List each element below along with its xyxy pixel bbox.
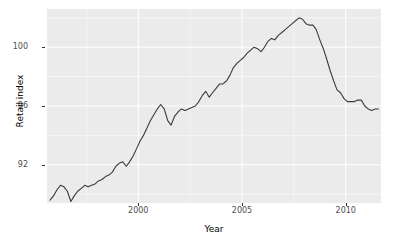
plot-panel — [47, 9, 381, 203]
y-tick-mark — [42, 165, 45, 166]
plot-svg — [47, 9, 381, 203]
x-tick-label: 2010 — [336, 207, 356, 215]
y-axis-title: Retail index — [15, 41, 25, 161]
y-tick-label: 92 — [18, 161, 28, 169]
y-tick-mark — [42, 47, 45, 48]
series-line-retail-index — [50, 18, 378, 202]
x-tick-mark — [346, 203, 347, 206]
x-tick-mark — [138, 203, 139, 206]
gridlines-major-y — [47, 47, 381, 165]
y-tick-mark — [42, 106, 45, 107]
retail-index-line-chart: 1009692 Retail index Year 200020052010 — [0, 0, 399, 246]
x-tick-label: 2005 — [232, 207, 252, 215]
x-axis-title: Year — [47, 224, 381, 234]
x-tick-label: 2000 — [128, 207, 148, 215]
x-tick-mark — [242, 203, 243, 206]
